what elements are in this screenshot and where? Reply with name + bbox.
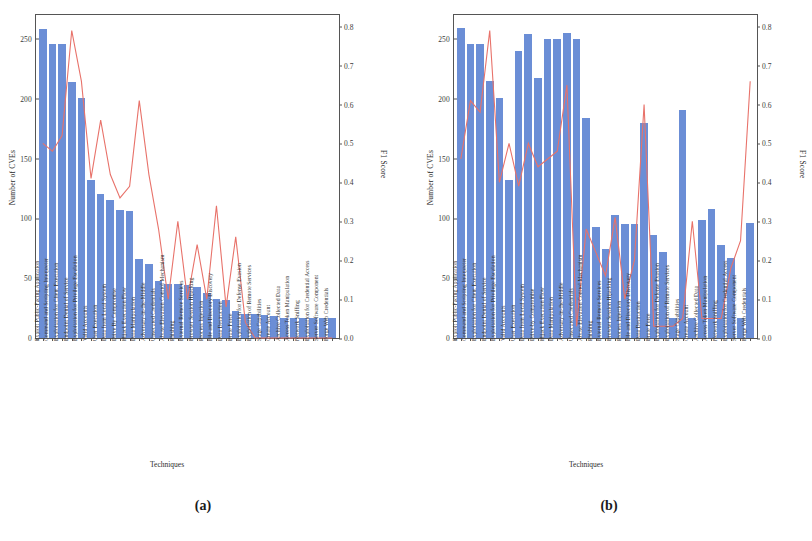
bar: [328, 318, 336, 338]
x-tick: File and Directory Discovery: [631, 338, 639, 458]
axes-b: 050100150200250 0.00.10.20.30.40.50.60.7…: [453, 14, 758, 339]
x-tick-label: Exploit Public-Facing Application: [34, 261, 40, 341]
y-tick-right: 0.4: [757, 178, 771, 187]
x-tick: Exploitation of Remote Services: [251, 338, 259, 458]
panel-caption-b: (b): [406, 498, 812, 514]
x-tick: Data Manipulation: [553, 338, 561, 458]
x-tick-label: Network Sniffing: [713, 300, 719, 341]
x-tick-label: Abuse Elevation Control Mechanism: [160, 255, 166, 341]
x-tick: Data Manipulation: [135, 338, 143, 458]
y-tick-right: 0.3: [339, 217, 353, 226]
x-tick-label: Forge Web Credentials: [742, 288, 748, 341]
x-tick: User Execution: [97, 338, 105, 458]
x-tick-label: Server Software Component: [314, 275, 320, 341]
x-tick: Network Sniffing: [299, 338, 307, 458]
x-tick-label: Exploitation for Defense Evasion: [655, 263, 661, 341]
x-tick: Data Destruction: [222, 338, 230, 458]
y-tick-right: 0.4: [339, 178, 353, 187]
y-tick-right: 0.8: [339, 22, 353, 31]
plot-a: Number of CVEs F1 Score 050100150200250 …: [0, 0, 406, 470]
x-tick: Brute Force: [232, 338, 240, 458]
y-tick-right: 0.3: [757, 217, 771, 226]
x-tick-label: Network Sniffing: [295, 300, 301, 341]
x-tick-label: Archive Collected Data: [693, 286, 699, 341]
x-tick-label: Valid Accounts: [501, 306, 507, 341]
bar: [640, 123, 648, 338]
x-tick-label: Exploitation of Remote Services: [665, 265, 671, 341]
x-tick: Stage Capabilities: [261, 338, 269, 458]
y-tick-left: 150: [438, 154, 454, 163]
x-axis-label-a: Techniques: [150, 460, 184, 469]
y-tick-right: 0.7: [339, 61, 353, 70]
x-tick-label: Exploitation for Privilege Escalation: [73, 255, 79, 341]
x-tick-label: Command and Scripting Interpreter: [44, 258, 50, 341]
x-tick: Data from Local System: [106, 338, 114, 458]
bar: [78, 98, 86, 338]
y-tick-left: 150: [20, 154, 36, 163]
x-tick: Network Sniffing: [717, 338, 725, 458]
x-tick: Stage Capabilities: [679, 338, 687, 458]
x-tick: External Remote Services: [184, 338, 192, 458]
x-tick: Abuse Elevation Control Mechanism: [164, 338, 172, 458]
x-tick-label: Brute Force: [227, 313, 233, 341]
x-tick-label: Exploitation for Client Execution: [54, 263, 60, 341]
x-tick: Command and Scripting Interpreter: [467, 338, 475, 458]
x-tick-label: Server Software Component: [732, 275, 738, 341]
x-tick-label: Data from Local System: [102, 284, 108, 341]
x-tick: Exploitation for Defense Evasion: [659, 338, 667, 458]
y-tick-left: 250: [20, 34, 36, 43]
y-axis-label-right-a: F1 Score: [379, 150, 388, 178]
panel-a: Number of CVEs F1 Score 050100150200250 …: [0, 0, 406, 541]
y-tick-right: 0.2: [339, 256, 353, 265]
x-tick: Exploitation for Credential Access: [727, 338, 735, 458]
x-tick: Exploit Public-Facing Application: [39, 338, 47, 458]
x-tick-label: Access Token Manipulation: [285, 276, 291, 341]
x-tick-label: Abuse Elevation Control Mechanism: [578, 255, 584, 341]
y-axis-label-left-b: Number of CVEs: [426, 150, 435, 205]
x-tick-label: Create Account: [684, 305, 690, 341]
x-tick: Forge Web Credentials: [328, 338, 336, 458]
x-tick: Endpoint Denial of Service: [486, 338, 494, 458]
x-tick: Access Token Manipulation: [290, 338, 298, 458]
panel-caption-a: (a): [0, 498, 406, 514]
x-tick: Phishing: [592, 338, 600, 458]
x-tick-label: Browser Session Hijacking: [189, 278, 195, 341]
y-tick-right: 0.1: [757, 295, 771, 304]
y-tick-left: 200: [438, 94, 454, 103]
x-tick: Archive Collected Data: [698, 338, 706, 458]
x-tick: Process Injection: [621, 338, 629, 458]
x-tick-label: User Execution: [92, 305, 98, 341]
x-tick: Exploit Public-Facing Application: [457, 338, 465, 458]
x-tick-label: Exploitation for Defense Evasion: [237, 263, 243, 341]
x-tick-label: User Execution: [510, 305, 516, 341]
x-tick-label: Archive Collected Data: [275, 286, 281, 341]
x-tick: Exploitation for Client Execution: [58, 338, 66, 458]
x-tick-label: Command and Scripting Interpreter: [462, 258, 468, 341]
x-tick-label: Exploitation for Credential Access: [722, 260, 728, 341]
x-tick-label: Brute Force: [645, 313, 651, 341]
x-tick-label: Process Injection: [198, 301, 204, 341]
x-tick: Hijack Execution Flow: [544, 338, 552, 458]
x-tick: Forge Web Credentials: [746, 338, 754, 458]
x-tick: Access Token Manipulation: [708, 338, 716, 458]
bar: [496, 98, 504, 338]
x-tick-label: Create Account: [266, 305, 272, 341]
x-tick: Abuse Elevation Control Mechanism: [582, 338, 590, 458]
x-tick-label: External Remote Services: [597, 281, 603, 342]
x-tick-label: Hijack Execution Flow: [539, 287, 545, 341]
y-tick-right: 0.1: [339, 295, 353, 304]
x-tick-label: File and Directory Discovery: [208, 273, 214, 341]
x-tick: Exploitation for Credential Access: [309, 338, 317, 458]
x-tick-label: Stage Capabilities: [674, 299, 680, 341]
x-tick-label: Data Manipulation: [549, 297, 555, 341]
x-tick: Drive By Compromise: [116, 338, 124, 458]
y-tick-left: 100: [20, 214, 36, 223]
x-tick-label: Unsecured Credentials: [568, 288, 574, 341]
x-tick: Archive Collected Data: [280, 338, 288, 458]
x-tick: Exploitation of Remote Services: [669, 338, 677, 458]
x-tick-label: Data Manipulation: [131, 297, 137, 341]
y-tick-right: 0.0: [339, 334, 353, 343]
y-tick-right: 0.6: [339, 100, 353, 109]
x-tick: Create Account: [688, 338, 696, 458]
x-tick: Command and Scripting Interpreter: [49, 338, 57, 458]
